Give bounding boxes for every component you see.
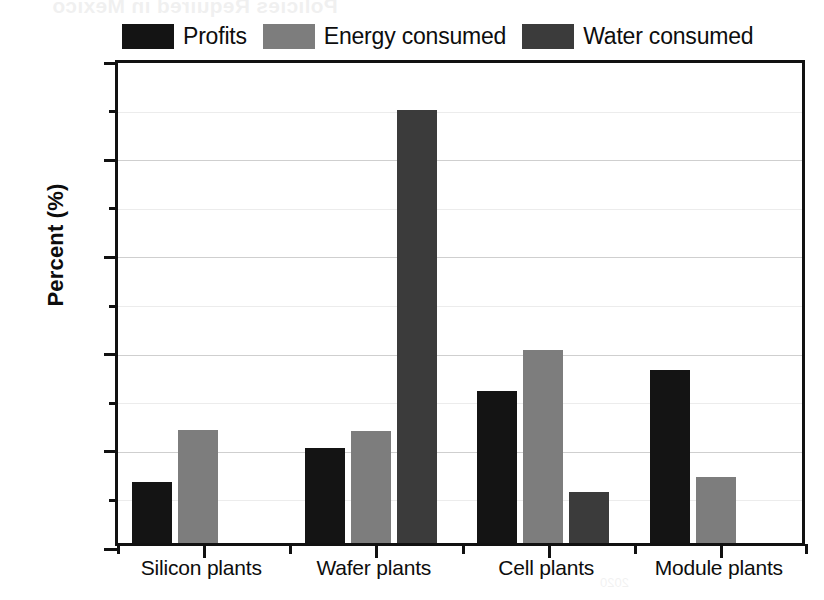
bar-module-plants-profits (650, 370, 690, 543)
legend-label-1: Energy consumed (324, 25, 506, 48)
y-axis-title: Percent (%) (43, 183, 69, 306)
bar-cell-plants-profits (477, 391, 517, 543)
bar-silicon-plants-profits (132, 482, 172, 543)
legend-swatch-icon-2 (522, 24, 574, 49)
y-tick-100 (104, 62, 118, 65)
x-axis-label-0: Silicon plants (141, 556, 262, 580)
bar-wafer-plants-energy-consumed (351, 431, 391, 543)
bar-silicon-plants-energy-consumed (178, 430, 218, 543)
x-axis-labels: Silicon plantsWafer plantsCell plantsMod… (115, 556, 805, 590)
x-tick-minor-2 (462, 544, 465, 554)
y-tick-minor-90 (109, 110, 118, 113)
bleed-through-artifact-top: Policies Required in Mexico (52, 0, 338, 18)
legend-swatch-icon-0 (122, 24, 174, 49)
legend-label-2: Water consumed (583, 25, 753, 48)
x-axis-label-2: Cell plants (498, 556, 594, 580)
bar-series-container (118, 63, 802, 543)
x-tick-minor-0 (117, 544, 120, 554)
y-tick-minor-30 (109, 402, 118, 405)
legend-item-2: Water consumed (522, 24, 753, 49)
legend-item-0: Profits (122, 24, 247, 49)
y-tick-minor-50 (109, 305, 118, 308)
x-tick-minor-3 (634, 544, 637, 554)
y-tick-40 (104, 353, 118, 356)
bar-cell-plants-water-consumed (569, 492, 609, 543)
plot-area: 020406080100 (115, 60, 805, 546)
bar-module-plants-energy-consumed (696, 477, 736, 543)
x-axis-label-3: Module plants (655, 556, 783, 580)
chart-legend: ProfitsEnergy consumedWater consumed (122, 21, 753, 51)
y-tick-minor-10 (109, 499, 118, 502)
y-tick-60 (104, 256, 118, 259)
bar-cell-plants-energy-consumed (523, 350, 563, 543)
y-tick-minor-70 (109, 207, 118, 210)
x-tick-minor-end (805, 544, 808, 554)
x-axis-label-1: Wafer plants (316, 556, 431, 580)
legend-label-0: Profits (183, 25, 247, 48)
y-tick-20 (104, 450, 118, 453)
bar-wafer-plants-water-consumed (397, 110, 437, 543)
bar-wafer-plants-profits (305, 448, 345, 543)
y-tick-80 (104, 159, 118, 162)
legend-swatch-icon-1 (263, 24, 315, 49)
x-tick-minor-1 (289, 544, 292, 554)
legend-item-1: Energy consumed (263, 24, 506, 49)
